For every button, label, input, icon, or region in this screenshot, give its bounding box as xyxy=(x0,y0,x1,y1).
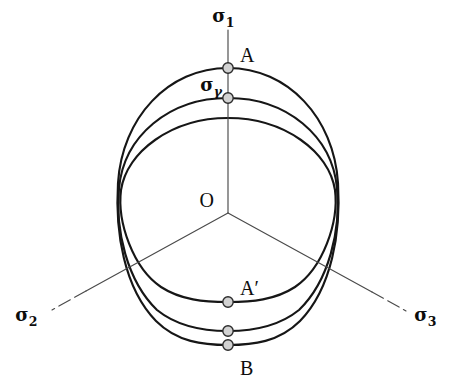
axis-label-sigma-1-symbol: σ xyxy=(212,5,225,26)
point-label-origin: O xyxy=(200,189,214,211)
axis-label-sigma-1-subscript: 1 xyxy=(226,15,235,30)
marker-point-A[interactable] xyxy=(223,63,233,73)
axis-line-sigma-2 xyxy=(86,213,228,291)
marker-point-middle[interactable] xyxy=(223,326,233,336)
axis-label-sigma-3-symbol: σ xyxy=(414,304,427,325)
yield-locus-diagram: σ 1 σ 2 σ 3 A σ γ O A′ B xyxy=(0,0,465,388)
point-label-sigma-gamma-subscript: γ xyxy=(214,84,223,99)
marker-point-A-prime[interactable] xyxy=(223,297,233,307)
axis-label-group: σ 1 σ 2 σ 3 xyxy=(15,5,436,329)
point-label-A-prime: A′ xyxy=(240,277,259,299)
axis-line-sigma-3-dashed-tip xyxy=(372,292,406,311)
point-label-B: B xyxy=(240,357,253,379)
point-label-A: A xyxy=(240,44,255,66)
axis-label-sigma-2-subscript: 2 xyxy=(29,314,38,329)
figure-canvas: σ 1 σ 2 σ 3 A σ γ O A′ B xyxy=(0,0,465,388)
marker-point-sigma-gamma[interactable] xyxy=(223,93,233,103)
point-label-sigma-gamma-symbol: σ xyxy=(200,74,213,95)
marker-point-B[interactable] xyxy=(223,340,233,350)
axis-line-sigma-2-dashed-tip xyxy=(52,291,86,310)
axis-label-sigma-3-subscript: 3 xyxy=(428,314,437,329)
axis-label-sigma-2-symbol: σ xyxy=(15,304,28,325)
